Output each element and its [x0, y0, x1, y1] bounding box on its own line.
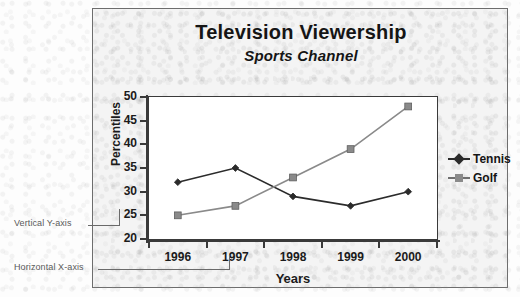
y-tick-25 — [140, 214, 146, 216]
data-point-golf-1997 — [232, 202, 239, 209]
y-tick-label-50: 50 — [107, 89, 137, 103]
scanned-page: Television Viewership Sports Channel Per… — [0, 0, 520, 297]
y-tick-label-40: 40 — [107, 136, 137, 150]
y-tick-label-45: 45 — [107, 113, 137, 127]
x-axis-title: Years — [148, 271, 438, 286]
callout-leader-x-vertical — [229, 255, 230, 270]
callout-leader-x-horizontal — [98, 269, 230, 270]
data-point-golf-1999 — [347, 146, 354, 153]
x-axis-line — [146, 240, 440, 242]
x-tick-label-1999: 1999 — [321, 250, 381, 264]
y-tick-45 — [140, 120, 146, 122]
x-tick-1 — [206, 242, 208, 248]
callout-label-horizontal-x-axis: Horizontal X-axis — [14, 262, 84, 272]
x-tick-label-1997: 1997 — [205, 250, 265, 264]
y-tick-label-20: 20 — [107, 231, 137, 245]
y-tick-40 — [140, 143, 146, 145]
y-tick-30 — [140, 191, 146, 193]
y-tick-label-30: 30 — [107, 184, 137, 198]
data-point-tennis-1997 — [232, 165, 239, 172]
x-tick-3 — [321, 242, 323, 248]
x-tick-4 — [378, 242, 380, 248]
data-point-tennis-1996 — [174, 179, 181, 186]
y-tick-label-25: 25 — [107, 207, 137, 221]
legend-marker-diamond-icon — [448, 152, 470, 166]
y-tick-35 — [140, 167, 146, 169]
y-tick-label-35: 35 — [107, 160, 137, 174]
x-tick-label-2000: 2000 — [378, 250, 438, 264]
data-point-golf-1996 — [174, 212, 181, 219]
chart-subtitle: Sports Channel — [93, 47, 509, 64]
series-lines — [149, 97, 437, 239]
y-axis-line — [146, 95, 148, 243]
data-point-golf-1998 — [290, 174, 297, 181]
callout-leader-y-vertical — [119, 209, 120, 226]
figure-frame: Television Viewership Sports Channel Per… — [92, 8, 508, 288]
legend-item-tennis[interactable]: Tennis — [448, 151, 511, 167]
legend-marker-square-icon — [448, 171, 470, 185]
data-point-tennis-1998 — [290, 193, 297, 200]
legend-label-tennis: Tennis — [473, 152, 511, 166]
x-tick-5 — [436, 242, 438, 248]
legend-item-golf[interactable]: Golf — [448, 170, 511, 186]
x-tick-0 — [148, 242, 150, 248]
data-point-tennis-2000 — [405, 188, 412, 195]
x-tick-label-1996: 1996 — [148, 250, 208, 264]
y-tick-50 — [140, 96, 146, 98]
plot-area — [148, 96, 438, 240]
callout-leader-y-horizontal — [88, 225, 120, 226]
data-point-golf-2000 — [405, 103, 412, 110]
x-tick-2 — [263, 242, 265, 248]
callout-label-vertical-y-axis: Vertical Y-axis — [14, 218, 72, 228]
x-tick-label-1998: 1998 — [263, 250, 323, 264]
chart-title: Television Viewership — [93, 21, 509, 44]
legend-label-golf: Golf — [473, 171, 497, 185]
chart-legend: TennisGolf — [448, 151, 511, 189]
data-point-tennis-1999 — [347, 202, 354, 209]
